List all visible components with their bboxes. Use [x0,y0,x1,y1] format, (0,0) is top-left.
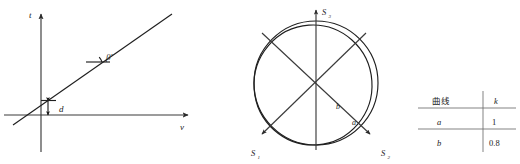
s2-axis-label: S 2 [381,148,391,160]
svg-text:2: 2 [388,155,391,160]
table-cell-k-a: 1 [492,117,496,127]
angle-arc [99,57,102,62]
table-cell-k-b: 0.8 [489,138,500,148]
panel-right-table: 曲线 k a 1 b 0.8 [418,91,516,152]
figure-root: t ν β' d S 3 S 1 [0,0,520,164]
svg-text:S: S [251,148,256,158]
table-header-k: k [494,96,498,106]
s3-axis-label: S 3 [322,7,332,19]
panel-left-line-plot: t ν β' d [4,10,188,152]
intercept-label: d [59,104,64,114]
figure-svg: t ν β' d S 3 S 1 [0,0,520,164]
sloped-line [13,14,172,125]
svg-text:S: S [381,148,386,158]
curve-b-label: b [336,102,340,111]
s1-axis-label: S 1 [251,148,260,160]
table-cell-curve-a: a [437,117,441,127]
angle-label: β' [105,52,113,62]
panel-middle-poincare: S 3 S 1 S 2 a b [250,7,391,160]
table-cell-curve-b: b [437,138,441,148]
nu-axis-label: ν [180,122,184,132]
svg-text:3: 3 [329,14,332,19]
svg-text:S: S [322,7,327,17]
t-axis-label: t [29,10,32,20]
svg-text:1: 1 [258,155,261,160]
table-header-curve: 曲线 [432,96,450,106]
curve-a-label: a [352,118,356,127]
